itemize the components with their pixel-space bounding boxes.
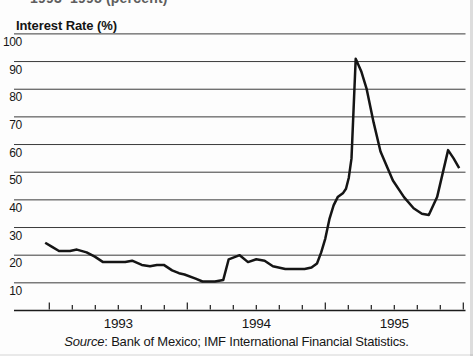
source-text: : Bank of Mexico; IMF International Fina… xyxy=(104,334,408,349)
interest-rate-line xyxy=(45,59,459,282)
x-axis-year-label: 1993 xyxy=(88,316,148,331)
source-note: Source: Bank of Mexico; IMF Internationa… xyxy=(0,334,473,349)
axis-ticks xyxy=(49,303,463,310)
y-axis-label: 20 xyxy=(1,258,22,269)
x-axis-year-label: 1995 xyxy=(364,316,424,331)
y-axis-label: 100 xyxy=(1,37,22,48)
gridlines xyxy=(14,34,466,283)
y-axis-label: 90 xyxy=(1,65,22,76)
source-word: Source xyxy=(64,334,104,349)
y-axis-label: 80 xyxy=(1,92,22,103)
y-axis-label: 60 xyxy=(1,148,22,159)
y-axis-label: 50 xyxy=(1,175,22,186)
y-axis-label: 40 xyxy=(1,203,22,214)
y-axis-label: 70 xyxy=(1,120,22,131)
interest-rate-chart xyxy=(0,0,473,356)
y-axis-label: 30 xyxy=(1,231,22,242)
chart-page: 1993–1995 (percent) Interest Rate (%) 10… xyxy=(0,0,473,356)
x-axis-year-label: 1994 xyxy=(226,316,286,331)
y-axis-label: 10 xyxy=(1,286,22,297)
